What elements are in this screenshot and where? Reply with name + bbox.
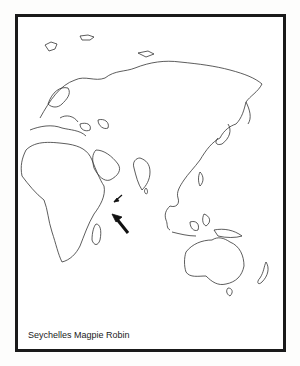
location-arrows: [112, 195, 128, 233]
coastlines: [21, 35, 268, 296]
range-map: [0, 0, 300, 366]
map-caption: Seychelles Magpie Robin: [28, 330, 130, 340]
